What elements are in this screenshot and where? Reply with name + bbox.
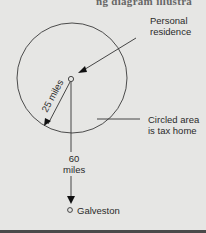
distance-label: 60 miles [63,152,85,176]
personal-residence-line-1: Personal [150,15,191,26]
tax-home-circle [17,23,127,133]
circled-area-label: Circled area is tax home [148,114,199,136]
distance-line-1: 60 [63,153,85,164]
distance-arrowhead-icon [67,196,75,204]
galveston-point-icon [68,208,73,213]
personal-residence-line-2: residence [150,26,191,37]
residence-arrowhead-icon [78,66,87,73]
circled-area-line-2: is tax home [148,125,199,136]
galveston-label: Galveston [77,205,120,216]
residence-pointer-line [82,38,136,71]
radius-label: 25 miles [39,77,65,114]
bottom-divider [0,230,206,233]
circled-area-line-1: Circled area [148,114,199,125]
personal-residence-label: Personal residence [150,15,191,37]
radius-arrowhead-icon [44,118,51,126]
residence-point-icon [68,76,73,81]
distance-line-2: miles [63,164,85,175]
